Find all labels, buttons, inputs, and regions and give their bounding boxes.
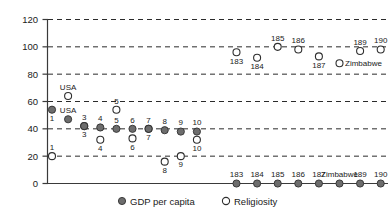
data-point <box>336 180 343 187</box>
point-label: 186 <box>292 36 306 45</box>
y-tick-label-100: 100 <box>22 41 38 52</box>
point-label: 6 <box>130 116 135 125</box>
data-point <box>65 93 72 100</box>
data-point <box>48 106 55 113</box>
legend: GDP per capitaReligiosity <box>118 196 277 207</box>
data-point <box>161 158 168 165</box>
point-label: 189 <box>353 170 367 179</box>
data-point <box>315 53 322 60</box>
data-point <box>357 180 364 187</box>
data-point <box>65 116 72 123</box>
data-point <box>377 46 384 53</box>
point-label: 8 <box>162 166 167 175</box>
y-tick-label-40: 40 <box>27 123 38 134</box>
point-label: 9 <box>179 118 184 127</box>
point-label: 190 <box>374 170 388 179</box>
point-label: 3 <box>82 130 87 139</box>
point-label: 1 <box>50 114 55 123</box>
point-label: 7 <box>146 133 151 142</box>
data-point <box>193 136 200 143</box>
legend-marker-1 <box>118 197 125 204</box>
data-point <box>129 125 136 132</box>
point-label: 185 <box>271 170 285 179</box>
data-point <box>274 180 281 187</box>
data-point <box>193 128 200 135</box>
legend-label-2: Religiosity <box>234 196 278 207</box>
point-label: 185 <box>271 34 285 43</box>
data-point <box>177 128 184 135</box>
data-point <box>81 123 88 130</box>
scatter-plot: 020406080100120 1USA34567891018318418518… <box>0 0 392 217</box>
y-tick-label-0: 0 <box>33 178 38 189</box>
point-label: 10 <box>192 118 201 127</box>
data-point <box>357 47 364 54</box>
data-point <box>274 43 281 50</box>
data-point <box>295 180 302 187</box>
legend-marker-2 <box>222 197 229 204</box>
point-label: 183 <box>230 57 244 66</box>
data-point <box>233 180 240 187</box>
data-point <box>254 180 261 187</box>
point-label: 187 <box>312 61 326 70</box>
data-point <box>161 127 168 134</box>
data-point <box>145 125 152 132</box>
point-label: 8 <box>162 117 167 126</box>
data-point <box>377 180 384 187</box>
point-label: 3 <box>82 113 87 122</box>
legend-label-1: GDP per capita <box>130 196 195 207</box>
data-point <box>49 153 56 160</box>
data-point <box>97 136 104 143</box>
data-point <box>177 153 184 160</box>
point-label: 186 <box>292 170 306 179</box>
point-label: 9 <box>179 160 184 169</box>
point-label: 184 <box>250 170 264 179</box>
point-label: 7 <box>146 116 151 125</box>
point-label: 10 <box>192 144 201 153</box>
point-label: 1 <box>50 143 55 152</box>
point-label: 189 <box>353 38 367 47</box>
point-label: 6 <box>130 143 135 152</box>
data-point <box>129 135 136 142</box>
data-point <box>233 49 240 56</box>
point-label: 5 <box>114 97 119 106</box>
point-label: 190 <box>374 36 388 45</box>
point-label: USA <box>60 83 77 92</box>
point-label: 4 <box>98 114 103 123</box>
point-label: 184 <box>250 62 264 71</box>
y-tick-label-80: 80 <box>27 69 38 80</box>
gridlines <box>48 20 388 157</box>
data-point <box>254 54 261 61</box>
y-tick-labels: 020406080100120 <box>22 14 38 189</box>
data-point <box>97 124 104 131</box>
y-tick-label-60: 60 <box>27 96 38 107</box>
data-point <box>336 60 343 67</box>
point-annotations: 1USA345678910183184185186187Zimbabwe1891… <box>50 34 388 180</box>
point-label: 183 <box>230 170 244 179</box>
chart-container: 020406080100120 1USA34567891018318418518… <box>0 0 392 217</box>
point-label: Zimbabwe <box>345 59 382 68</box>
point-label: 5 <box>114 116 119 125</box>
point-label: USA <box>60 106 77 115</box>
data-point <box>113 125 120 132</box>
data-point <box>113 106 120 113</box>
y-tick-label-20: 20 <box>27 151 38 162</box>
y-tick-label-120: 120 <box>22 14 38 25</box>
data-point <box>295 46 302 53</box>
data-point <box>315 180 322 187</box>
point-label: 4 <box>98 144 103 153</box>
